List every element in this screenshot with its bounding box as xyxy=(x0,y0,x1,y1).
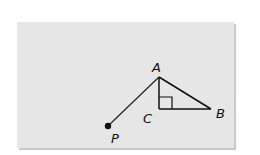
segment-AB xyxy=(159,77,211,109)
right-angle-marker xyxy=(159,97,172,109)
label-C: C xyxy=(143,111,153,126)
point-P-dot xyxy=(105,123,111,129)
label-P: P xyxy=(111,131,119,146)
label-A: A xyxy=(151,60,161,75)
label-B: B xyxy=(216,106,225,121)
geometry-figure: A C B P xyxy=(0,0,260,155)
